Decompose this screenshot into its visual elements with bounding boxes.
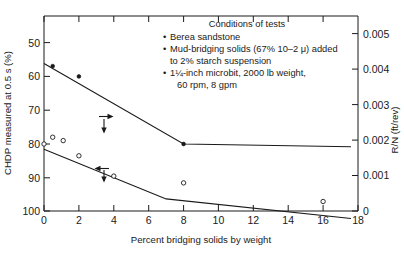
- y-axis-title: CHDP measured at 0.5 s (%): [2, 51, 13, 175]
- data-point: [77, 154, 81, 158]
- legend-item-0: Berea sandstone: [170, 32, 240, 42]
- y-tick-label: 90: [28, 172, 40, 184]
- legend-item-3: 1¼-inch microbit, 2000 lb weight,: [170, 68, 306, 78]
- y-tick-label: 60: [28, 70, 40, 82]
- x-tick-labels: 0 2 4 6 8 10 12 14 16 18: [41, 214, 364, 226]
- y2-tick-label: 0.001: [363, 169, 389, 181]
- data-point: [42, 142, 46, 146]
- legend-bullet-1: •: [163, 44, 166, 54]
- upper-curve-arrow: [99, 114, 114, 134]
- x-tick-label: 6: [146, 214, 152, 226]
- y-tick-label: 80: [28, 138, 40, 150]
- chart-svg: 0 2 4 6 8 10 12 14 16 18 50 60 70 80 90 …: [0, 0, 404, 254]
- x-tick-label: 10: [213, 214, 225, 226]
- data-point: [51, 135, 55, 139]
- y-right-tick-labels: 0 0.001 0.002 0.003 0.004 0.005: [363, 28, 389, 217]
- data-point: [182, 142, 186, 146]
- legend-title: Conditions of tests: [209, 19, 286, 29]
- x-tick-label: 14: [282, 214, 294, 226]
- legend-item-1: Mud-bridging solids (67% 10–2 μ) added: [170, 44, 338, 54]
- y2-tick-label: 0.002: [363, 134, 389, 146]
- legend-block: Conditions of tests • Berea sandstone • …: [163, 19, 338, 90]
- y-right-ticks: [352, 34, 358, 211]
- legend-bullet-3: •: [163, 68, 166, 78]
- x-tick-label: 8: [181, 214, 187, 226]
- data-point: [51, 64, 55, 68]
- data-point: [61, 138, 65, 142]
- x-tick-label: 2: [76, 214, 82, 226]
- chart-figure: 0 2 4 6 8 10 12 14 16 18 50 60 70 80 90 …: [0, 0, 404, 254]
- y-tick-label: 100: [22, 205, 40, 217]
- x-tick-label: 4: [111, 214, 117, 226]
- y-tick-label: 50: [28, 37, 40, 49]
- series-line-rn: [44, 149, 351, 218]
- y2-tick-label: 0: [363, 205, 369, 217]
- y-tick-label: 70: [28, 104, 40, 116]
- legend-item-2: to 2% starch suspension: [170, 56, 271, 66]
- y2-tick-label: 0.003: [363, 99, 389, 111]
- lower-curve-arrow: [95, 166, 110, 183]
- x-tick-label: 12: [247, 214, 259, 226]
- data-point: [112, 174, 116, 178]
- y2-axis-title: R/N (ft/rev): [389, 107, 400, 154]
- legend-bullet-0: •: [163, 32, 166, 42]
- legend-item-4: 60 rpm, 8 gpm: [177, 80, 237, 90]
- y-left-ticks: [44, 43, 50, 211]
- data-point: [321, 199, 325, 203]
- x-axis-title: Percent bridging solids by weight: [131, 234, 272, 245]
- data-point: [77, 75, 81, 79]
- y2-tick-label: 0.004: [363, 63, 389, 75]
- x-tick-label: 0: [41, 214, 47, 226]
- y-left-tick-labels: 50 60 70 80 90 100: [22, 37, 40, 217]
- y2-tick-label: 0.005: [363, 28, 389, 40]
- data-point: [181, 181, 185, 185]
